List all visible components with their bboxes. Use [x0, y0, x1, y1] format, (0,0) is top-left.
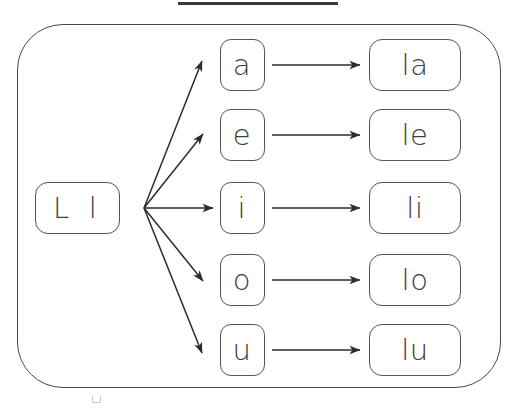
base-letter-card[interactable]: L l [35, 182, 120, 234]
vowel-label-e: e [233, 121, 253, 150]
syllable-label-lu: lu [401, 336, 429, 365]
vowel-card-i[interactable]: i [220, 182, 265, 234]
syllable-label-la: la [402, 51, 429, 80]
stray-artifact-mark [92, 396, 101, 403]
syllable-card-lu[interactable]: lu [369, 324, 461, 376]
base-letter-label: L l [53, 194, 102, 223]
syllable-card-li[interactable]: li [369, 182, 461, 234]
syllable-label-le: le [401, 121, 428, 150]
diagram-canvas: L l a e i o u la le li lo lu [0, 0, 515, 410]
vowel-label-u: u [232, 336, 252, 365]
vowel-label-a: a [233, 51, 253, 80]
vowel-label-o: o [233, 266, 252, 295]
syllable-label-lo: lo [402, 266, 429, 295]
vowel-label-i: i [238, 194, 248, 223]
syllable-card-lo[interactable]: lo [369, 254, 461, 306]
vowel-card-u[interactable]: u [220, 324, 265, 376]
syllable-card-la[interactable]: la [369, 39, 461, 91]
vowel-card-a[interactable]: a [220, 39, 265, 91]
vowel-card-o[interactable]: o [220, 254, 265, 306]
syllable-label-li: li [406, 194, 423, 223]
vowel-card-e[interactable]: e [220, 109, 265, 161]
title-underline-rule [178, 2, 338, 5]
syllable-card-le[interactable]: le [369, 109, 461, 161]
